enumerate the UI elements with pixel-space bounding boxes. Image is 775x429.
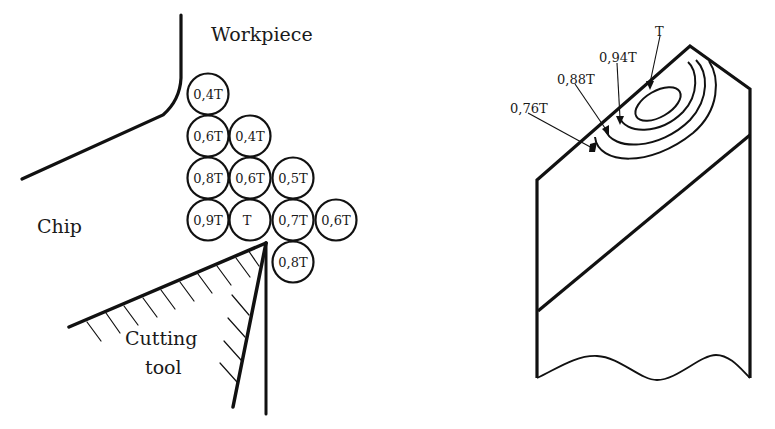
- tool-rake-face: [69, 243, 266, 327]
- cell-label: T: [243, 213, 252, 228]
- isotherm-label-0-94T: 0,94T: [599, 50, 637, 65]
- cell-label: 0,6T: [235, 171, 265, 186]
- arrowheads: [589, 81, 654, 152]
- chip-boundary-line: [22, 15, 181, 179]
- isotherm-label-0-88T: 0,88T: [557, 72, 595, 87]
- cell-label: 0,5T: [278, 171, 308, 186]
- isotherm-T: [630, 80, 686, 128]
- cell-label: 0,6T: [321, 213, 351, 228]
- cell-label: 0,8T: [278, 255, 308, 270]
- isotherm-label-0-76T: 0,76T: [510, 101, 548, 116]
- cutting-tool-label-line1: Cutting: [125, 327, 198, 349]
- tool-edge-diagonal: [538, 135, 750, 311]
- tool-body-outline: [537, 46, 750, 378]
- chip-label: Chip: [37, 215, 82, 237]
- right-figure: [528, 36, 750, 380]
- cell-label: 0,4T: [193, 87, 223, 102]
- cell-label: 0,8T: [193, 171, 223, 186]
- workpiece-label: Workpiece: [211, 23, 313, 45]
- cell-label: 0,7T: [278, 213, 308, 228]
- cell-label: 0,6T: [193, 129, 223, 144]
- tool-flank-face: [233, 243, 266, 407]
- cutting-temperature-diagram: 0,4T 0,6T 0,4T 0,8T 0,6T 0,5T 0,9T T 0,7…: [0, 0, 775, 429]
- break-line: [537, 355, 750, 380]
- cell-label: 0,4T: [235, 129, 265, 144]
- cutting-tool-label-line2: tool: [145, 356, 182, 378]
- cell-label: 0,9T: [193, 213, 223, 228]
- isotherm-label-T: T: [655, 24, 664, 39]
